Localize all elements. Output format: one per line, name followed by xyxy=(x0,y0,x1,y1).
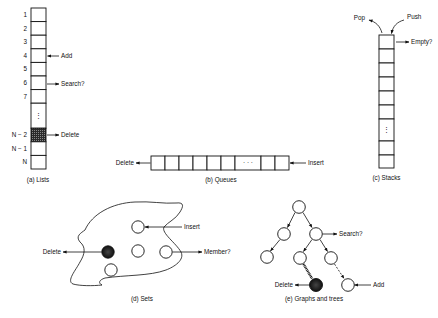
set-element-deleted xyxy=(102,246,114,258)
stacks-panel: ⋮ Pop Push Empty? (c) Stacks xyxy=(354,13,433,182)
curved-arrow-icon xyxy=(369,20,382,33)
set-op-insert: Insert xyxy=(184,223,200,230)
stack-cell xyxy=(379,105,394,119)
list-op-search: Search? xyxy=(61,80,85,87)
list-index: 5 xyxy=(23,65,27,72)
queue-cell xyxy=(275,156,289,170)
tree-node-root xyxy=(293,201,306,214)
tree-node xyxy=(261,251,274,264)
queues-panel: · · · Delete Insert (b) Queues xyxy=(116,156,324,184)
queue-cell xyxy=(179,156,193,170)
queue-cell xyxy=(261,156,275,170)
list-op-delete: Delete xyxy=(61,131,80,138)
stack-cell xyxy=(379,63,394,77)
caption-stacks: (c) Stacks xyxy=(373,174,401,182)
list-cell-3 xyxy=(31,35,46,49)
list-ellipsis: ⋮ xyxy=(35,112,42,119)
set-element xyxy=(105,264,117,276)
stack-op-pop: Pop xyxy=(354,14,366,22)
tree-edge xyxy=(271,240,281,252)
stack-cell-top xyxy=(379,35,394,49)
list-cell-7 xyxy=(31,90,46,104)
set-element xyxy=(132,245,144,257)
list-array xyxy=(31,8,46,169)
stack-array xyxy=(379,35,394,168)
stack-cell-bottom xyxy=(379,155,394,168)
tree-edge xyxy=(303,213,312,228)
list-cell-1 xyxy=(31,8,46,22)
sets-panel: Insert Delete Member? (d) Sets xyxy=(43,202,231,303)
stack-ellipsis: ⋮ xyxy=(383,126,390,133)
tree-node xyxy=(325,252,338,265)
list-index: 2 xyxy=(23,25,27,32)
tree-op-add: Add xyxy=(373,281,385,288)
tree-edge xyxy=(320,240,328,252)
queue-cell xyxy=(221,156,235,170)
list-index: 3 xyxy=(23,38,27,45)
list-cell-n-minus-2-highlighted xyxy=(31,128,46,142)
set-boundary xyxy=(71,202,183,286)
queue-array xyxy=(151,156,289,170)
list-index: 4 xyxy=(23,52,27,59)
caption-graphs-trees: (e) Graphs and trees xyxy=(285,295,343,303)
list-cell-n-minus-1 xyxy=(31,142,46,156)
tree-edge xyxy=(304,240,313,252)
tree-node-deleted xyxy=(310,279,323,292)
tree-op-delete: Delete xyxy=(275,281,294,288)
tree-node-added xyxy=(342,279,355,292)
tree-edge-new xyxy=(335,264,345,279)
lists-panel: ⋮ 1 2 3 4 5 6 7 N − 2 N − 1 N Add Search… xyxy=(12,8,85,184)
set-element xyxy=(132,221,144,233)
list-cell-5 xyxy=(31,62,46,76)
list-index: 1 xyxy=(23,11,27,18)
stack-cell xyxy=(379,49,394,63)
set-element xyxy=(160,246,172,258)
queue-cell xyxy=(207,156,221,170)
graphs-trees-panel: Search? Delete Add (e) Graphs and trees xyxy=(261,201,385,303)
tree-node-searched xyxy=(310,228,323,241)
tree-edge xyxy=(288,213,296,228)
set-op-member: Member? xyxy=(204,248,231,255)
tree-node xyxy=(278,228,291,241)
stack-cell xyxy=(379,77,394,91)
list-index: 7 xyxy=(23,93,27,100)
set-op-delete: Delete xyxy=(43,248,62,255)
data-structures-figure: ⋮ 1 2 3 4 5 6 7 N − 2 N − 1 N Add Search… xyxy=(0,0,438,318)
queue-op-insert: Insert xyxy=(308,159,324,166)
list-index: 6 xyxy=(23,79,27,86)
stack-op-push: Push xyxy=(407,13,422,20)
list-cell-n xyxy=(31,155,46,169)
list-cell-4 xyxy=(31,49,46,63)
queue-cell xyxy=(193,156,207,170)
stack-cell xyxy=(379,141,394,155)
list-cell-6 xyxy=(31,76,46,90)
list-index: N − 1 xyxy=(12,145,28,152)
list-index: N − 2 xyxy=(12,131,28,138)
queue-cell xyxy=(151,156,165,170)
caption-sets: (d) Sets xyxy=(131,295,153,303)
queue-ellipsis: · · · xyxy=(243,159,253,166)
list-cell-2 xyxy=(31,22,46,36)
list-op-add: Add xyxy=(61,52,73,59)
list-indices: 1 2 3 4 5 6 7 N − 2 N − 1 N xyxy=(12,11,28,165)
stack-cell xyxy=(379,91,394,105)
caption-queues: (b) Queues xyxy=(205,176,237,184)
list-index: N xyxy=(22,158,27,165)
tree-op-search: Search? xyxy=(339,230,363,237)
queue-op-delete: Delete xyxy=(116,159,135,166)
curved-arrow-icon xyxy=(392,20,405,34)
tree-node xyxy=(294,252,307,265)
caption-lists: (a) Lists xyxy=(27,176,49,184)
queue-cell xyxy=(165,156,179,170)
tree-edge-deleted xyxy=(304,264,313,279)
stack-op-empty: Empty? xyxy=(411,38,433,46)
